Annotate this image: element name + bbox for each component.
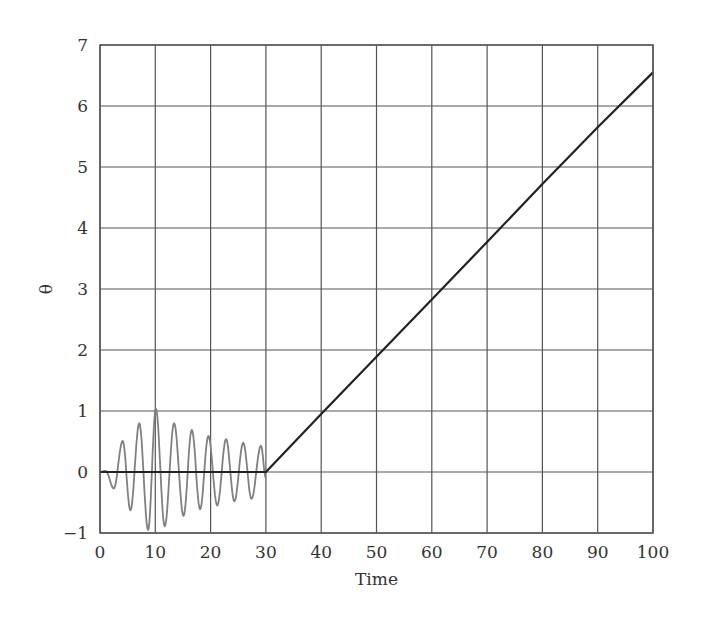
x-tick-label: 0 — [95, 542, 106, 562]
y-tick-label: 4 — [77, 218, 88, 238]
y-tick-label: 2 — [77, 340, 88, 360]
x-tick-label: 80 — [532, 542, 554, 562]
y-tick-label: 5 — [77, 157, 88, 177]
chart: 0102030405060708090100 −101234567 Time θ — [0, 0, 707, 618]
grid-lines — [100, 45, 653, 533]
x-tick-label: 10 — [144, 542, 166, 562]
x-tick-label: 90 — [587, 542, 609, 562]
series-line-oscillation — [100, 409, 266, 530]
y-tick-label: 1 — [77, 401, 88, 421]
y-tick-label: −1 — [63, 523, 88, 543]
x-tick-label: 100 — [637, 542, 669, 562]
y-axis-label: θ — [36, 284, 56, 294]
y-tick-label: 3 — [77, 279, 88, 299]
x-axis-label: Time — [355, 569, 398, 589]
x-tick-label: 60 — [421, 542, 443, 562]
y-tick-label: 0 — [77, 462, 88, 482]
x-tick-label: 30 — [255, 542, 277, 562]
x-tick-label: 70 — [476, 542, 498, 562]
x-axis-ticks: 0102030405060708090100 — [95, 542, 670, 562]
x-tick-label: 50 — [366, 542, 388, 562]
x-tick-label: 20 — [200, 542, 222, 562]
x-tick-label: 40 — [310, 542, 332, 562]
y-axis-ticks: −101234567 — [63, 35, 88, 543]
y-tick-label: 6 — [77, 96, 88, 116]
y-tick-label: 7 — [77, 35, 88, 55]
